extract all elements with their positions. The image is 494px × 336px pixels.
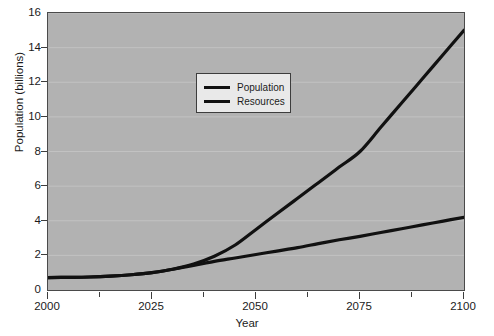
x-axis-title: Year bbox=[0, 317, 494, 329]
y-tick-label: 8 bbox=[7, 146, 41, 156]
y-axis: Population (billions) 0246810121416 bbox=[0, 0, 41, 336]
y-tick-label: 4 bbox=[7, 215, 41, 225]
y-tick-label: 14 bbox=[7, 42, 41, 52]
x-minor-tick-mark bbox=[203, 292, 204, 297]
legend-label-population: Population bbox=[237, 82, 284, 93]
y-tick-mark bbox=[41, 81, 47, 82]
y-tick-mark bbox=[41, 47, 47, 48]
data-series-group bbox=[48, 30, 464, 277]
y-tick-mark bbox=[41, 185, 47, 186]
legend-swatch-icon bbox=[204, 100, 230, 103]
x-axis: 20002025205020752100 bbox=[0, 300, 494, 318]
plot-area: Population Resources bbox=[47, 12, 465, 291]
plot-canvas bbox=[48, 13, 464, 290]
x-minor-tick-mark bbox=[307, 292, 308, 297]
x-minor-tick-mark bbox=[411, 292, 412, 297]
y-tick-label: 12 bbox=[7, 76, 41, 86]
x-tick-mark bbox=[359, 292, 360, 299]
legend-item-population: Population bbox=[197, 80, 290, 94]
y-tick-label: 16 bbox=[7, 7, 41, 17]
gridlines bbox=[48, 13, 464, 255]
legend: Population Resources bbox=[196, 73, 291, 113]
y-tick-mark bbox=[41, 220, 47, 221]
x-minor-tick-mark bbox=[99, 292, 100, 297]
legend-item-resources: Resources bbox=[197, 94, 290, 108]
x-tick-mark bbox=[47, 292, 48, 299]
y-tick-mark bbox=[41, 151, 47, 152]
population-resources-line-chart: Population (billions) 0246810121416 Popu… bbox=[0, 0, 494, 336]
x-tick-label: 2050 bbox=[225, 300, 285, 312]
x-tick-label: 2075 bbox=[329, 300, 389, 312]
x-tick-label: 2000 bbox=[17, 300, 77, 312]
x-tick-mark bbox=[463, 292, 464, 299]
x-tick-mark bbox=[151, 292, 152, 299]
y-tick-label: 6 bbox=[7, 180, 41, 190]
x-tick-mark bbox=[255, 292, 256, 299]
legend-swatch-icon bbox=[204, 86, 230, 89]
legend-label-resources: Resources bbox=[237, 96, 285, 107]
series-line-resources bbox=[48, 217, 464, 277]
x-tick-label: 2100 bbox=[433, 300, 493, 312]
y-tick-mark bbox=[41, 116, 47, 117]
x-tick-label: 2025 bbox=[121, 300, 181, 312]
y-tick-label: 0 bbox=[7, 284, 41, 294]
y-tick-mark bbox=[41, 254, 47, 255]
series-line-population bbox=[48, 30, 464, 277]
y-tick-label: 2 bbox=[7, 249, 41, 259]
y-tick-label: 10 bbox=[7, 111, 41, 121]
